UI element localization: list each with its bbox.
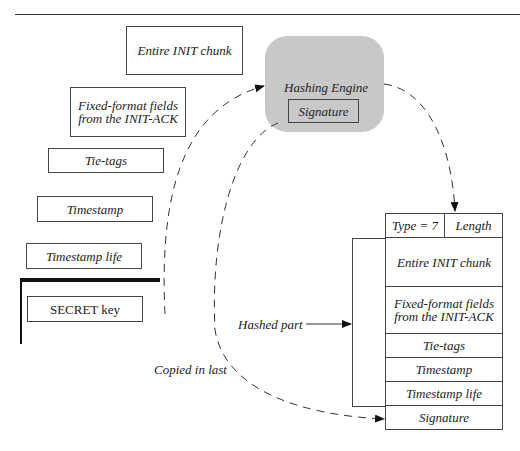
signature-copy-arrow (214, 123, 384, 419)
engine-to-cookie-arrow (384, 84, 455, 211)
connector-arrows (0, 0, 520, 451)
inputs-to-engine-arrow (164, 86, 264, 314)
